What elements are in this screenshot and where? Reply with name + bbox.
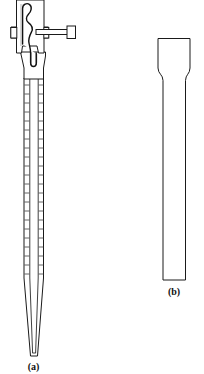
left-tab bbox=[11, 28, 17, 39]
valve-handle-shaft[interactable] bbox=[36, 30, 69, 35]
technical-line-drawing: (a) (b) bbox=[0, 0, 204, 374]
graduated-barrel bbox=[24, 78, 44, 356]
figure-canvas: (a) (b) (a) (b) bbox=[0, 0, 204, 374]
caption-b: (b) bbox=[168, 286, 180, 298]
caption-a: (a) bbox=[28, 361, 40, 373]
neck-bulb bbox=[31, 53, 36, 66]
panel-a-pipette: (a) bbox=[11, 0, 76, 373]
valve-handle-knob[interactable] bbox=[67, 26, 76, 39]
panel-b-tube: (b) bbox=[158, 39, 190, 299]
tube-outline bbox=[158, 39, 190, 281]
